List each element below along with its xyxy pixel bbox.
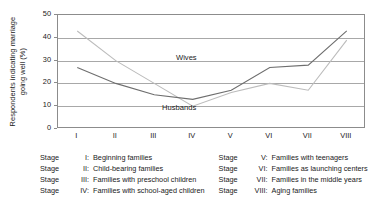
legend-stage-description: Beginning families [93,152,205,163]
y-tick-mark-0 [54,128,57,129]
chart-figure: Respondents indicating marriage going we… [0,0,375,203]
series-line-husbands [77,31,347,99]
legend-left-column: StageI: Beginning familiesStageII: Child… [40,152,205,196]
legend-stage-numeral: II: [67,163,89,174]
legend-stage-description: Families with school-aged children [93,185,205,196]
y-tick-label-0: 0 [33,124,51,132]
legend-stage-numeral: VI: [246,163,268,174]
legend-stage-word: Stage [219,163,246,174]
y-axis-title-line1: Respondents indicating marriage [8,17,17,127]
legend-stage-word: Stage [40,163,67,174]
legend-stage-numeral: V: [246,152,268,163]
legend-stage-description: Families with teenagers [272,152,370,163]
legend-stage-word: Stage [40,152,67,163]
x-tick-label-VII: VII [294,131,320,140]
legend-right-column: StageV: Families with teenagersStageVI: … [219,152,370,196]
legend-stage-word: Stage [40,174,67,185]
legend-row: StageI: Beginning families [40,152,205,163]
legend-stage-description: Families with preschool children [93,174,205,185]
plot-area: Wives Husbands [57,14,365,128]
x-tick-label-VI: VI [256,131,282,140]
legend-row: StageV: Families with teenagers [219,152,370,163]
legend-stage-description: Child-bearing families [93,163,205,174]
legend-row: StageIV: Families with school-aged child… [40,185,205,196]
data-lines [58,15,366,129]
legend-stage-numeral: III: [67,174,89,185]
y-tick-label-30: 30 [33,56,51,64]
y-tick-label-50: 50 [33,10,51,18]
legend-stage-numeral: VIII: [246,185,268,196]
x-tick-label-II: II [102,131,128,140]
legend-row: StageIII: Families with preschool childr… [40,174,205,185]
legend-stage-numeral: I: [67,152,89,163]
stage-legend: StageI: Beginning familiesStageII: Child… [40,152,370,196]
y-tick-label-40: 40 [33,33,51,41]
legend-row: StageII: Child-bearing families [40,163,205,174]
legend-row: StageVI: Families as launching centers [219,163,370,174]
y-axis-title-line2: going well (%) [18,48,27,95]
legend-stage-word: Stage [219,185,246,196]
legend-stage-word: Stage [219,174,246,185]
x-tick-label-I: I [63,131,89,140]
y-tick-label-20: 20 [33,78,51,86]
y-axis-title: Respondents indicating marriage going we… [8,7,27,137]
legend-stage-word: Stage [219,152,246,163]
legend-row: StageVII: Families in the middle years [219,174,370,185]
legend-stage-word: Stage [40,185,67,196]
legend-stage-numeral: VII: [246,174,268,185]
x-tick-label-III: III [140,131,166,140]
series-label-husbands: Husbands [162,103,196,112]
x-tick-label-V: V [217,131,243,140]
legend-stage-numeral: IV: [67,185,89,196]
x-tick-label-VIII: VIII [333,131,359,140]
legend-row: StageVIII: Aging families [219,185,370,196]
y-tick-label-10: 10 [33,101,51,109]
x-tick-label-IV: IV [179,131,205,140]
legend-stage-description: Families in the middle years [272,174,370,185]
legend-stage-description: Aging families [272,185,370,196]
legend-stage-description: Families as launching centers [272,163,370,174]
series-label-wives: Wives [176,53,197,62]
